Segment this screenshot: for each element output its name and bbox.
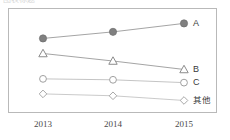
chart-screenshot: 图表标题 ABC其他 201320142015 — [0, 0, 230, 140]
series-label-other: 其他 — [193, 96, 211, 105]
series-label-c: C — [193, 78, 200, 87]
x-tick-2013: 2013 — [34, 119, 52, 129]
x-tick-2014: 2014 — [104, 119, 122, 129]
series-label-a: A — [193, 19, 199, 28]
series-label-b: B — [193, 65, 199, 74]
x-tick-2015: 2015 — [175, 119, 193, 129]
chart-plot-frame — [8, 8, 217, 113]
cropped-title-text: 图表标题 — [3, 0, 43, 4]
